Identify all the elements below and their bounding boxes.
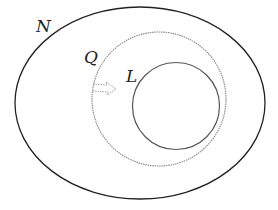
label-n: N <box>35 16 52 36</box>
set-l-circle <box>133 63 220 150</box>
set-n-ellipse <box>15 7 265 199</box>
dashed-arrow-icon <box>93 82 116 95</box>
label-l: L <box>125 66 137 86</box>
label-q: Q <box>84 47 98 67</box>
venn-diagram: N Q L <box>0 0 278 210</box>
